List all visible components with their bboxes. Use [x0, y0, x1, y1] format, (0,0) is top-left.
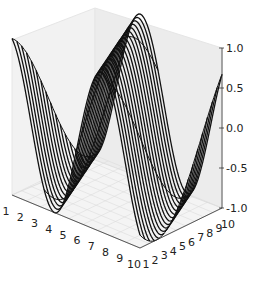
y-tick-label: 5: [179, 240, 186, 253]
x-tick-label: 9: [116, 252, 123, 265]
wireframe-3d-plot: 12345678910 12345678910 -1.0-0.50.00.51.…: [0, 0, 256, 288]
x-tick-label: 8: [102, 246, 109, 259]
z-tick-label: -1.0: [226, 202, 247, 215]
z-tick-label: 1.0: [226, 42, 244, 55]
x-tick-label: 6: [74, 234, 81, 247]
z-tick-label: 0.0: [226, 122, 244, 135]
x-tick-label: 10: [127, 258, 141, 271]
x-tick-label: 1: [3, 205, 10, 218]
z-axis-ticks: -1.0-0.50.00.51.0: [219, 42, 247, 215]
y-tick-label: 10: [221, 218, 235, 231]
y-tick-label: 2: [152, 254, 159, 267]
y-tick-label: 4: [170, 245, 177, 258]
x-tick-label: 5: [59, 229, 66, 242]
x-tick-label: 4: [45, 223, 52, 236]
z-tick-label: -0.5: [226, 162, 247, 175]
x-tick-label: 3: [31, 217, 38, 230]
z-tick-label: 0.5: [226, 82, 244, 95]
y-tick-label: 1: [143, 258, 150, 271]
y-tick-label: 8: [206, 227, 213, 240]
x-tick-label: 2: [17, 211, 24, 224]
y-tick-label: 6: [188, 236, 195, 249]
y-tick-label: 3: [161, 249, 168, 262]
x-tick-label: 7: [88, 240, 95, 253]
y-tick-label: 7: [197, 231, 204, 244]
